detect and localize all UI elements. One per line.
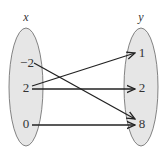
mapping-svg: x y −2 2 0 1 2 8 xyxy=(0,0,167,155)
domain-label: x xyxy=(22,10,29,24)
mapping-diagram: x y −2 2 0 1 2 8 xyxy=(0,0,167,155)
range-value-2: 2 xyxy=(139,80,146,95)
arrow-neg2-to-8 xyxy=(34,63,135,119)
domain-value-neg2: −2 xyxy=(20,55,34,70)
range-label: y xyxy=(137,10,144,24)
range-value-1: 1 xyxy=(139,45,146,60)
domain-value-2: 2 xyxy=(23,80,30,95)
range-value-8: 8 xyxy=(139,116,146,131)
arrow-2-to-1 xyxy=(32,53,135,86)
domain-value-0: 0 xyxy=(23,116,30,131)
